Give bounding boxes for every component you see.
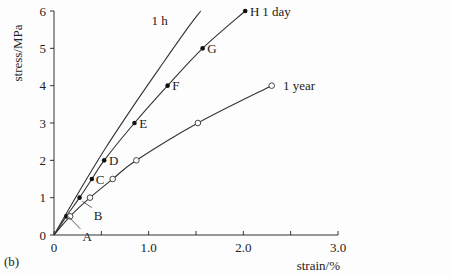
curve-label: 1 year: [283, 78, 316, 93]
x-axis-label: strain/%: [297, 258, 340, 273]
x-tick-label: 1.0: [141, 240, 157, 255]
curve-label: 1 h: [152, 13, 169, 28]
data-point: [110, 176, 116, 182]
x-tick-label: 2.0: [235, 240, 251, 255]
leader-line: [82, 201, 91, 207]
point-label-H: H: [250, 4, 259, 19]
data-point: [77, 195, 82, 200]
data-point: [87, 195, 93, 201]
point-label-G: G: [207, 41, 216, 56]
point-label-D: D: [109, 153, 118, 168]
labels: 1 h1 day1 yearABCDEFGH: [68, 4, 316, 245]
data-point: [243, 9, 248, 14]
y-tick-label: 0: [40, 228, 47, 243]
curves: [54, 9, 275, 235]
data-point: [195, 120, 201, 126]
y-tick-label: 5: [40, 41, 47, 56]
data-point: [90, 177, 95, 182]
curve-1-year: [54, 86, 272, 235]
point-label-B: B: [94, 208, 103, 223]
y-tick-label: 6: [40, 4, 47, 19]
point-label-A: A: [82, 229, 92, 244]
y-tick-label: 4: [40, 78, 47, 93]
point-label-C: C: [96, 172, 105, 187]
data-point: [132, 121, 137, 126]
data-point: [165, 83, 170, 88]
y-tick-label: 2: [40, 153, 47, 168]
point-label-F: F: [172, 78, 179, 93]
y-tick-label: 3: [40, 116, 47, 131]
leader-line: [68, 216, 80, 229]
x-tick-label: 0: [51, 240, 58, 255]
stress-strain-chart: 012345601.02.03.0strain/%stress/MPa 1 h1…: [0, 0, 452, 276]
data-point: [200, 46, 205, 51]
x-tick-label: 3.0: [330, 240, 346, 255]
curve-1-h: [54, 11, 201, 235]
y-tick-label: 1: [40, 190, 47, 205]
data-point: [102, 158, 107, 163]
point-label-E: E: [139, 116, 147, 131]
figure-label: (b): [4, 254, 19, 270]
curve-label: 1 day: [262, 4, 291, 19]
y-axis-label: stress/MPa: [10, 24, 25, 81]
data-point: [269, 83, 275, 89]
data-point: [134, 158, 140, 164]
axes: 012345601.02.03.0strain/%stress/MPa: [10, 4, 346, 274]
